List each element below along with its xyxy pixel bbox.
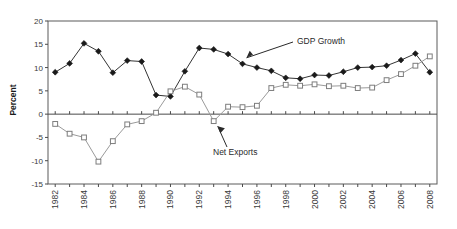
- marker-net-exports-1999: [298, 83, 303, 88]
- plot-frame: [48, 21, 437, 184]
- marker-gdp-growth-2003: [355, 65, 361, 71]
- x-tick-label-2002: 2002: [338, 190, 348, 209]
- marker-net-exports-2003: [355, 86, 360, 91]
- y-tick-label-1: 15: [34, 40, 43, 49]
- marker-gdp-growth-1993: [211, 47, 217, 53]
- x-tick-label-2004: 2004: [367, 190, 377, 209]
- y-tick-label-0: 20: [34, 17, 43, 26]
- y-axis-tick-labels: 20151050-5-10-15: [31, 17, 43, 189]
- x-tick-label-1994: 1994: [223, 190, 233, 209]
- marker-net-exports-2001: [327, 84, 332, 89]
- marker-net-exports-2002: [341, 83, 346, 88]
- x-tick-label-2000: 2000: [310, 190, 320, 209]
- marker-net-exports-2008: [427, 54, 432, 59]
- marker-gdp-growth-1989: [153, 92, 159, 98]
- y-tick-label-2: 10: [34, 64, 43, 73]
- marker-gdp-growth-2001: [326, 73, 332, 79]
- marker-gdp-growth-1988: [139, 59, 145, 65]
- x-axis-tick-labels: 1982198419861988199019921994199619982000…: [50, 190, 435, 209]
- marker-net-exports-2004: [370, 85, 375, 90]
- marker-net-exports-1991: [182, 84, 187, 89]
- marker-net-exports-2000: [312, 82, 317, 87]
- y-tick-label-7: -15: [31, 180, 43, 189]
- data-series-group: [52, 40, 432, 164]
- x-tick-label-1988: 1988: [137, 190, 147, 209]
- marker-net-exports-1988: [139, 119, 144, 124]
- x-tick-label-1990: 1990: [165, 190, 175, 209]
- marker-gdp-growth-1995: [240, 61, 246, 67]
- x-tick-label-1992: 1992: [194, 190, 204, 209]
- axis-ticks: [45, 21, 430, 187]
- marker-gdp-growth-1998: [283, 75, 289, 81]
- marker-net-exports-1997: [269, 86, 274, 91]
- y-tick-label-3: 5: [39, 87, 44, 96]
- marker-gdp-growth-1994: [225, 51, 231, 57]
- marker-gdp-growth-2006: [398, 57, 404, 63]
- marker-net-exports-1990: [168, 89, 173, 94]
- y-tick-label-4: 0: [39, 110, 44, 119]
- annotation-gdp-growth: GDP Growth: [297, 36, 345, 46]
- marker-gdp-growth-1991: [182, 68, 188, 74]
- marker-net-exports-2006: [399, 72, 404, 77]
- x-tick-label-1982: 1982: [50, 190, 60, 209]
- x-tick-label-2008: 2008: [425, 190, 435, 209]
- marker-net-exports-1996: [255, 103, 260, 108]
- marker-net-exports-1993: [211, 119, 216, 124]
- marker-gdp-growth-1982: [52, 69, 58, 75]
- annotations-group: GDP GrowthNet Exports: [213, 36, 345, 157]
- marker-net-exports-2007: [413, 63, 418, 68]
- marker-net-exports-1984: [82, 135, 87, 140]
- marker-net-exports-1992: [197, 92, 202, 97]
- marker-net-exports-1989: [154, 110, 159, 115]
- marker-gdp-growth-1997: [268, 68, 274, 74]
- marker-gdp-growth-2004: [369, 64, 375, 70]
- x-tick-label-2006: 2006: [396, 190, 406, 209]
- chart-container: 20151050-5-10-15 19821984198619881990199…: [0, 0, 457, 229]
- marker-gdp-growth-1999: [297, 76, 303, 82]
- marker-net-exports-1995: [240, 105, 245, 110]
- y-tick-label-6: -10: [31, 157, 43, 166]
- marker-net-exports-1994: [226, 104, 231, 109]
- marker-gdp-growth-1992: [196, 45, 202, 51]
- y-axis-title: Percent: [8, 84, 18, 115]
- marker-gdp-growth-2002: [340, 69, 346, 75]
- economic-indicators-line-chart: 20151050-5-10-15 19821984198619881990199…: [0, 0, 457, 229]
- marker-net-exports-1983: [67, 131, 72, 136]
- x-tick-label-1996: 1996: [252, 190, 262, 209]
- marker-gdp-growth-2005: [384, 63, 390, 69]
- marker-net-exports-2005: [384, 78, 389, 83]
- marker-net-exports-1987: [125, 122, 130, 127]
- annotation-net-exports: Net Exports: [213, 147, 257, 157]
- marker-gdp-growth-1996: [254, 65, 260, 71]
- x-tick-label-1998: 1998: [281, 190, 291, 209]
- marker-net-exports-1986: [110, 139, 115, 144]
- x-tick-label-1984: 1984: [79, 190, 89, 209]
- x-tick-label-1986: 1986: [108, 190, 118, 209]
- marker-net-exports-1985: [96, 159, 101, 164]
- marker-gdp-growth-2000: [312, 72, 318, 78]
- marker-gdp-growth-1985: [96, 48, 102, 54]
- y-tick-label-5: -5: [36, 133, 44, 142]
- marker-net-exports-1982: [53, 122, 58, 127]
- marker-net-exports-1998: [283, 82, 288, 87]
